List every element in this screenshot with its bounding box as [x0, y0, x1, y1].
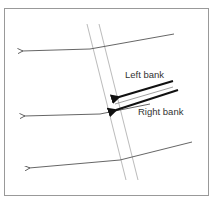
channel-left-line: [87, 24, 126, 180]
flow-line-bottom: [29, 142, 192, 168]
right-bank-label: Right bank: [138, 106, 183, 117]
left-bank-label: Left bank: [125, 69, 164, 80]
diagram-canvas: [0, 0, 214, 200]
flow-line-top: [22, 34, 174, 51]
